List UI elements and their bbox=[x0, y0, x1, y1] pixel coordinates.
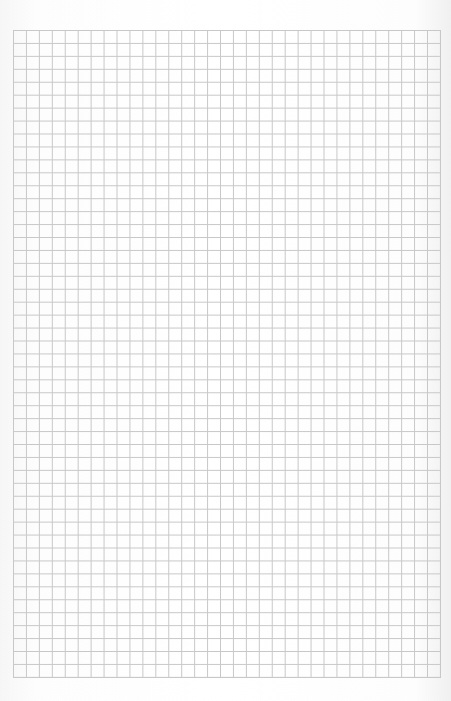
graph-paper-sheet bbox=[0, 0, 451, 701]
grid bbox=[13, 30, 441, 678]
